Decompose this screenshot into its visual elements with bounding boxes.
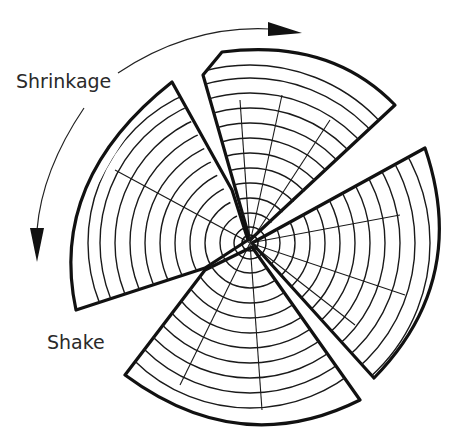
wood-shrinkage-diagram: Shrinkage Shake: [0, 0, 462, 436]
arrowhead-right-icon: [268, 22, 302, 36]
shrinkage-label: Shrinkage: [16, 70, 111, 92]
log-cross-section: [0, 0, 462, 436]
shake-label: Shake: [47, 331, 105, 353]
arrowhead-down-icon: [30, 228, 44, 262]
